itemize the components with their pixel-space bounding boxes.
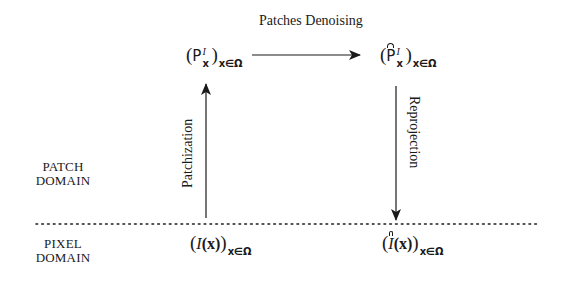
pixel-domain-label-line2: DOMAIN — [30, 251, 96, 265]
patches-index: x∈Ω — [219, 58, 243, 69]
patchization-label: Patchization — [180, 119, 196, 188]
node-image: (I(x))x∈Ω — [190, 233, 252, 262]
patch-domain-label-line2: DOMAIN — [30, 174, 96, 188]
patches-denoising-label: Patches Denoising — [259, 13, 363, 29]
pixel-domain-label: PIXEL DOMAIN — [30, 237, 96, 265]
node-denoised-image: (I(x))x∈Ω — [382, 233, 444, 262]
denoised-patches-index: x∈Ω — [413, 58, 437, 69]
denoised-image-index: x∈Ω — [420, 246, 444, 257]
image-index: x∈Ω — [228, 246, 252, 257]
denoised-image-base: I — [388, 234, 393, 254]
denoised-patches-base: P — [386, 46, 395, 66]
node-patches: (PIx)x∈Ω — [186, 45, 243, 74]
reprojection-label: Reprojection — [406, 96, 422, 168]
patch-domain-label: PATCH DOMAIN — [30, 160, 96, 188]
image-argument: (x) — [202, 235, 221, 252]
node-denoised-patches: (PIx)x∈Ω — [380, 45, 437, 74]
patches-subscript: x — [202, 54, 208, 74]
pixel-domain-label-line1: PIXEL — [30, 237, 96, 251]
denoised-image-argument: (x) — [394, 235, 413, 252]
denoised-patches-subscript: x — [396, 54, 402, 74]
patches-base: P — [192, 47, 201, 65]
patch-domain-label-line1: PATCH — [30, 160, 96, 174]
